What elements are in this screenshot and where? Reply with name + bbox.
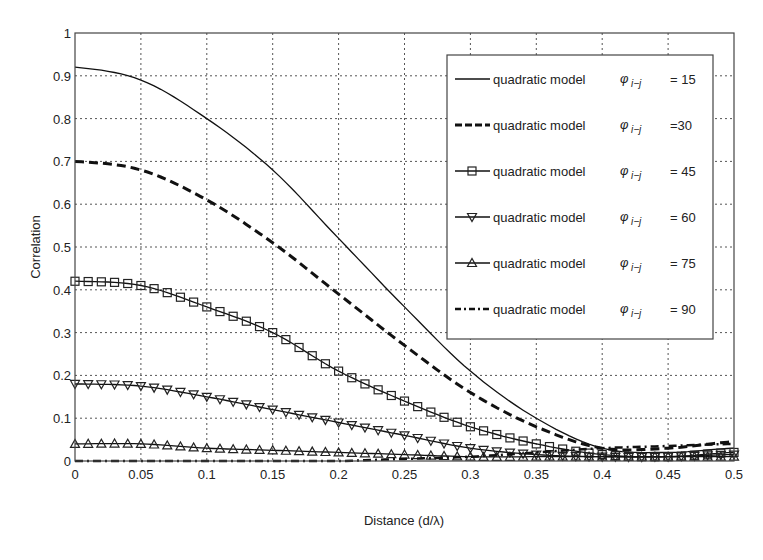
phi-symbol: φ [620,209,629,224]
legend-label: quadratic model [493,72,586,87]
correlation-chart: 00.050.10.150.20.250.30.350.40.450.5 00.… [0,0,763,560]
y-axis-label: Correlation [28,215,43,279]
legend-label: quadratic model [493,164,586,179]
phi-subscript: i−j [631,170,642,181]
phi-subscript: i−j [631,216,642,227]
phi-symbol: φ [620,301,629,316]
x-tick-label: 0.45 [655,467,680,482]
x-tick-label: 0.3 [461,467,479,482]
y-tick-label: 0.2 [53,368,71,383]
phi-subscript: i−j [631,124,642,135]
legend-value: = 45 [670,164,696,179]
legend-box [447,55,713,339]
x-tick-label: 0.25 [392,467,417,482]
x-tick-label: 0.4 [593,467,611,482]
legend-value: = 75 [670,256,696,271]
legend-label: quadratic model [493,210,586,225]
legend-value: = 90 [670,302,696,317]
y-tick-label: 0.8 [53,112,71,127]
x-tick-label: 0.5 [725,467,743,482]
y-tick-label: 0.4 [53,283,71,298]
legend-value: = 60 [670,210,696,225]
x-tick-label: 0.05 [128,467,153,482]
x-tick-label: 0 [71,467,78,482]
legend-label: quadratic model [493,302,586,317]
x-tick-label: 0.1 [198,467,216,482]
x-tick-label: 0.35 [524,467,549,482]
phi-symbol: φ [620,255,629,270]
y-tick-label: 0.6 [53,197,71,212]
phi-symbol: φ [620,71,629,86]
y-tick-label: 0.9 [53,69,71,84]
legend-label: quadratic model [493,256,586,271]
legend-value: = 15 [670,72,696,87]
legend-value: =30 [670,118,692,133]
x-tick-label: 0.2 [330,467,348,482]
legend: quadratic modelφi−j= 15quadratic modelφi… [447,55,713,339]
y-tick-label: 0.5 [53,240,71,255]
x-axis-ticks: 00.050.10.150.20.250.30.350.40.450.5 [71,467,743,482]
x-axis-label: Distance (d/λ) [364,513,444,528]
y-axis-ticks: 00.10.20.30.40.50.60.70.80.91 [53,26,71,469]
y-tick-label: 0.3 [53,326,71,341]
phi-subscript: i−j [631,262,642,273]
legend-label: quadratic model [493,118,586,133]
x-tick-label: 0.15 [260,467,285,482]
y-tick-label: 1 [64,26,71,41]
phi-subscript: i−j [631,78,642,89]
y-tick-label: 0.1 [53,411,71,426]
y-tick-label: 0 [64,454,71,469]
phi-symbol: φ [620,117,629,132]
y-tick-label: 0.7 [53,154,71,169]
phi-symbol: φ [620,163,629,178]
phi-subscript: i−j [631,308,642,319]
